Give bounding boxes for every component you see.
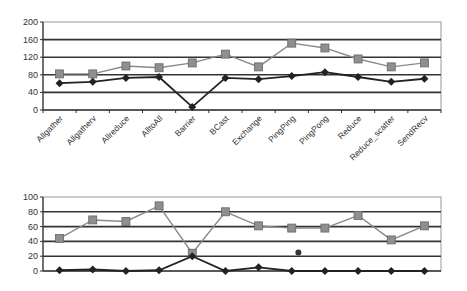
data-point-square [255, 63, 263, 71]
plot-area [43, 22, 441, 110]
data-point-diamond [221, 267, 229, 275]
data-point-square [221, 50, 229, 58]
data-point-diamond [56, 79, 64, 87]
data-point-diamond [420, 75, 428, 83]
data-point-diamond [420, 267, 428, 275]
data-point-square [387, 236, 395, 244]
data-point-square [122, 62, 130, 70]
x-category-label: Allgatherv [64, 113, 98, 147]
y-tick-label: 80 [28, 207, 38, 217]
chart-canvas: 04080120160200AllgatherAllgathervAllredu… [0, 0, 467, 291]
data-point-diamond [56, 266, 64, 274]
series-line-squares [60, 43, 425, 74]
x-category-label: PingPong [297, 113, 330, 146]
data-point-square [56, 234, 64, 242]
data-point-diamond [321, 267, 329, 275]
x-category-label: Exchange [230, 113, 264, 147]
x-category-label: BCast [207, 113, 231, 137]
series-line-squares [60, 206, 425, 253]
y-tick-label: 0 [33, 266, 38, 276]
y-tick-label: 100 [23, 192, 38, 202]
stray-data-point [295, 250, 301, 256]
x-category-label: Allreduce [99, 113, 131, 145]
data-point-square [420, 59, 428, 67]
data-point-diamond [122, 267, 130, 275]
y-tick-label: 60 [28, 222, 38, 232]
data-point-diamond [288, 267, 296, 275]
data-point-diamond [255, 75, 263, 83]
data-point-square [89, 70, 97, 78]
data-point-square [221, 208, 229, 216]
data-point-diamond [89, 78, 97, 86]
series-line-diamonds [60, 72, 425, 107]
data-point-square [420, 222, 428, 230]
data-point-diamond [89, 266, 97, 274]
data-point-square [56, 70, 64, 78]
y-tick-label: 160 [23, 35, 38, 45]
data-point-diamond [387, 78, 395, 86]
x-category-label: Allgather [34, 113, 65, 144]
x-category-label: AlltoAll [139, 113, 165, 139]
x-category-label: SendRecv [395, 113, 430, 148]
data-point-square [155, 64, 163, 72]
y-tick-label: 40 [28, 87, 38, 97]
y-tick-label: 120 [23, 52, 38, 62]
data-point-square [255, 222, 263, 230]
x-category-label: PingPing [266, 113, 297, 144]
data-point-square [89, 216, 97, 224]
data-point-square [321, 224, 329, 232]
data-point-square [354, 212, 362, 220]
series-line-diamonds [60, 256, 425, 271]
data-point-square [387, 63, 395, 71]
chart-2: 020406080100 [23, 192, 441, 276]
y-tick-label: 80 [28, 70, 38, 80]
x-category-label: Reduce [336, 113, 364, 141]
y-tick-label: 0 [33, 105, 38, 115]
data-point-square [188, 59, 196, 67]
data-point-diamond [354, 267, 362, 275]
data-point-diamond [387, 267, 395, 275]
data-point-square [321, 44, 329, 52]
chart-1: 04080120160200AllgatherAllgathervAllredu… [23, 17, 441, 163]
x-category-label: Barrier [173, 113, 198, 138]
data-point-diamond [255, 263, 263, 271]
data-point-diamond [155, 266, 163, 274]
data-point-square [288, 224, 296, 232]
data-point-square [288, 39, 296, 47]
data-point-diamond [288, 72, 296, 80]
data-point-square [155, 202, 163, 210]
y-tick-label: 200 [23, 17, 38, 27]
y-tick-label: 20 [28, 251, 38, 261]
plot-area [43, 197, 441, 271]
data-point-square [122, 217, 130, 225]
data-point-square [354, 55, 362, 63]
y-tick-label: 40 [28, 236, 38, 246]
